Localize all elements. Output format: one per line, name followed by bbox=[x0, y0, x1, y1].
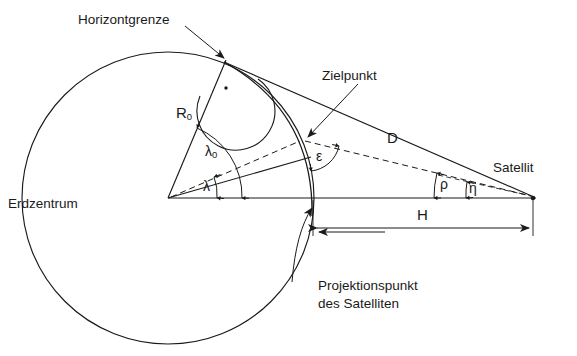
lambda0-subscript: 0 bbox=[212, 149, 217, 160]
label-angle-rho: ρ bbox=[440, 176, 448, 192]
label-angle-epsilon: ε bbox=[316, 148, 322, 164]
label-satellit: Satellit bbox=[493, 160, 534, 175]
label-height-h: H bbox=[417, 206, 428, 223]
label-projektionspunkt-line1: Projektionspunkt bbox=[318, 278, 418, 293]
angle-arc-lambda bbox=[214, 177, 217, 198]
angle-arc-rho bbox=[434, 173, 437, 198]
label-zielpunkt: Zielpunkt bbox=[322, 68, 377, 83]
label-radius-r0: R0 bbox=[176, 104, 192, 122]
diagram-svg bbox=[0, 0, 577, 356]
dashed-eta-reference bbox=[438, 175, 531, 196]
label-erdzentrum: Erdzentrum bbox=[8, 196, 78, 211]
label-angle-eta: η bbox=[469, 180, 477, 196]
leader-target-point bbox=[308, 84, 358, 137]
lambda0-symbol: λ bbox=[205, 143, 212, 159]
radius-subscript: 0 bbox=[187, 111, 192, 122]
label-projektionspunkt-line2: des Satelliten bbox=[318, 296, 399, 311]
satellite-point-dot bbox=[531, 196, 536, 201]
label-angle-lambda: λ bbox=[203, 178, 210, 194]
label-angle-lambda0: λ0 bbox=[205, 143, 217, 160]
surface-arc-through-target bbox=[224, 62, 312, 216]
figure-canvas: Horizontgrenze Zielpunkt Satellit Erdzen… bbox=[0, 0, 577, 356]
dashed-centre-to-target bbox=[171, 141, 300, 197]
radius-symbol: R bbox=[176, 104, 187, 121]
leader-horizon-limit bbox=[185, 26, 224, 58]
label-distance-d: D bbox=[387, 129, 398, 146]
right-angle-dot bbox=[224, 86, 227, 89]
angle-arc-eta bbox=[466, 182, 467, 198]
label-horizontgrenze: Horizontgrenze bbox=[78, 12, 170, 27]
